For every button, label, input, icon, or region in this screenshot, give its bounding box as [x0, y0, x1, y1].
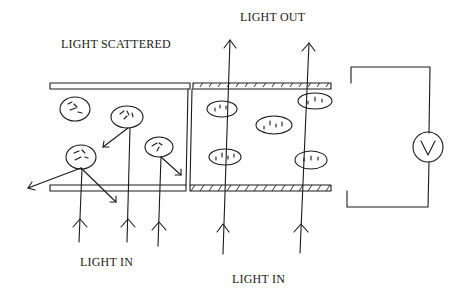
- region-divider: [186, 89, 192, 185]
- light-in-right-label: LIGHT IN: [232, 272, 285, 287]
- light-scattered-label: LIGHT SCATTERED: [61, 37, 171, 52]
- scattering-particles: [60, 97, 173, 169]
- voltmeter-icon: [413, 132, 443, 162]
- transmitted-light-rays: [217, 40, 315, 254]
- light-in-left-label: LIGHT IN: [80, 255, 133, 270]
- diagram-canvas: LIGHT SCATTERED LIGHT OUT LIGHT IN LIGHT…: [0, 0, 468, 294]
- light-out-label: LIGHT OUT: [240, 10, 305, 25]
- top-plate: [50, 83, 331, 89]
- bottom-plate: [50, 185, 331, 191]
